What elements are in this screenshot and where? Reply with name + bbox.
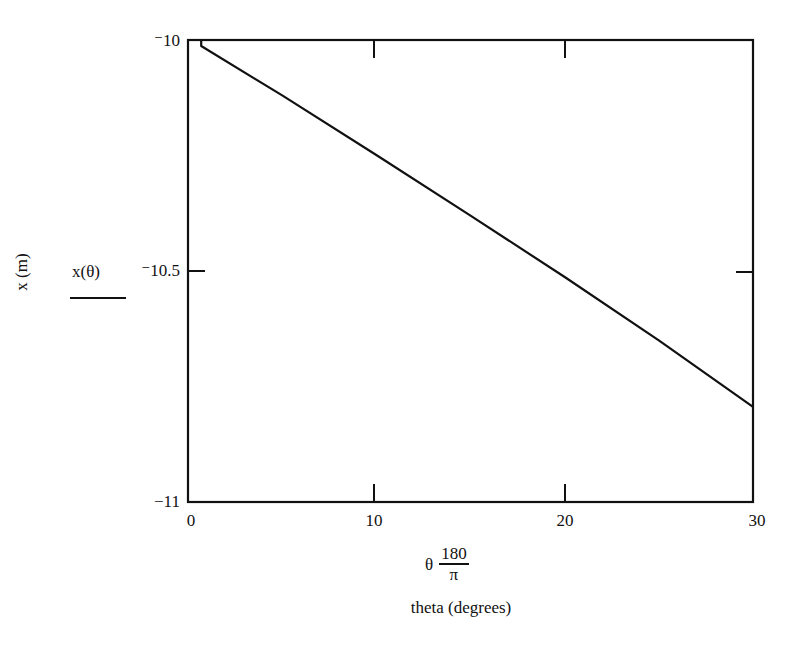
y-tick-label-mid: ⁻10.5 xyxy=(128,262,180,279)
x-axis-expression: θ 180 π xyxy=(425,545,469,585)
x-expr-denominator: π xyxy=(450,565,459,585)
y-ticks xyxy=(188,271,753,272)
x-tick-label-0: 0 xyxy=(187,512,196,529)
x-ticks xyxy=(374,40,565,502)
y-tick-label-bottom: −11 xyxy=(128,493,180,510)
y-expression-text: x(θ) xyxy=(72,262,100,281)
x-axis-title: theta (degrees) xyxy=(411,598,512,618)
plot-area xyxy=(0,0,798,648)
x-expr-fraction: 180 π xyxy=(439,545,469,585)
y-axis-title: x (m) xyxy=(12,253,32,290)
y-axis-expression: x(θ) xyxy=(45,262,100,282)
data-line-x-theta xyxy=(201,40,753,407)
x-tick-label-20: 20 xyxy=(557,512,574,529)
y-expression-underline xyxy=(70,297,126,299)
x-expr-numerator: 180 xyxy=(439,545,469,565)
plot-frame xyxy=(188,40,753,502)
x-tick-label-10: 10 xyxy=(366,512,383,529)
x-tick-label-30: 30 xyxy=(749,512,766,529)
x-expr-prefix: θ xyxy=(425,555,433,575)
y-tick-label-top: ⁻10 xyxy=(128,32,180,49)
